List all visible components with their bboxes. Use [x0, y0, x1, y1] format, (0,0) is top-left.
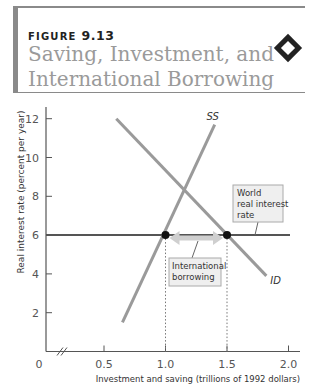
world-rate-leader	[255, 222, 258, 235]
equilibrium-point	[223, 231, 231, 239]
y-tick-label: 2	[32, 307, 39, 320]
arrow-head-left-icon	[170, 231, 180, 245]
ss-label: SS	[207, 111, 220, 122]
world-rate-callout-text: rate	[237, 210, 254, 220]
world-rate-callout-text: World	[237, 188, 261, 198]
y-tick-label: 8	[32, 190, 39, 203]
arrow-head-right-icon	[213, 231, 223, 245]
borrowing-leader	[192, 241, 198, 258]
x-axis-label: Investment and saving (trillions of 1992…	[96, 374, 300, 384]
y-tick-label: 4	[32, 268, 39, 281]
id-label: ID	[270, 275, 281, 286]
x-tick-label: 0.5	[95, 358, 113, 371]
borrowing-callout-text: International	[172, 261, 226, 271]
x-tick-label: 2.0	[280, 358, 298, 371]
x-tick-label: 1.5	[218, 358, 236, 371]
y-axis-label: Real interest rate (percent per year)	[16, 110, 26, 273]
y-tick-label: 12	[25, 113, 39, 126]
x-tick-label: 1.0	[157, 358, 175, 371]
equilibrium-point	[162, 231, 170, 239]
saving-supply-curve	[122, 125, 214, 323]
origin-label: 0	[36, 358, 43, 371]
borrowing-callout-text: borrowing	[172, 272, 215, 282]
y-tick-label: 6	[32, 229, 39, 242]
y-tick-label: 10	[25, 152, 39, 165]
world-rate-callout-text: real interest	[237, 199, 289, 209]
chart: 246810120.51.01.52.00Investment and savi…	[0, 0, 317, 391]
